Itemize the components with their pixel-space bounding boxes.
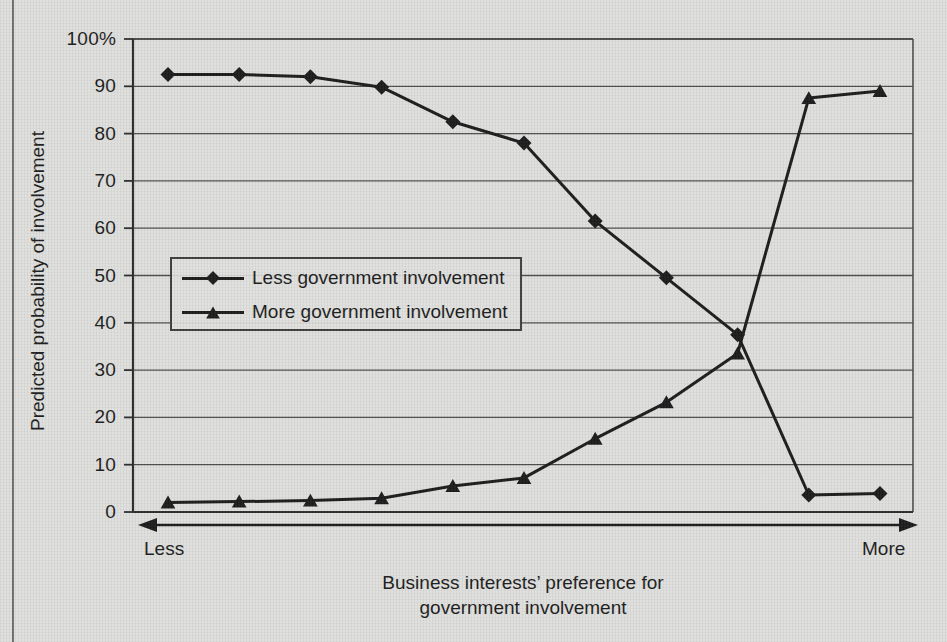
- data-point-marker-triangle: [588, 432, 603, 445]
- data-point-marker-diamond: [374, 80, 389, 95]
- x-axis-right-end-label: More: [862, 538, 905, 560]
- data-point-marker-diamond: [206, 271, 220, 285]
- figure-chart-predicted-probability: Predicted probability of involvement 010…: [0, 0, 947, 642]
- legend-item-2: More government involvement: [182, 295, 508, 329]
- x-axis-left-end-label: Less: [144, 538, 184, 560]
- legend-diamond-icon: [182, 268, 244, 288]
- data-point-marker-diamond: [873, 486, 888, 501]
- data-point-marker-diamond: [801, 487, 816, 502]
- x-axis-title: Business interests’ preference for gover…: [133, 570, 913, 620]
- y-axis-tick-marks: [124, 39, 133, 512]
- x-axis-direction-arrow: [138, 518, 918, 532]
- data-point-marker-diamond: [232, 67, 247, 82]
- legend-item-label: More government involvement: [252, 301, 508, 323]
- legend-triangle-icon: [182, 302, 244, 322]
- data-point-marker-diamond: [303, 69, 318, 84]
- legend-item-1: Less government involvement: [182, 261, 504, 295]
- x-axis-title-line2: government involvement: [133, 595, 913, 620]
- data-point-marker-diamond: [445, 114, 460, 129]
- x-axis-title-line1: Business interests’ preference for: [133, 570, 913, 595]
- chart-legend: Less government involvementMore governme…: [170, 257, 522, 331]
- legend-item-label: Less government involvement: [252, 267, 504, 289]
- gridlines: [133, 39, 913, 465]
- data-point-marker-triangle: [206, 307, 220, 319]
- data-point-marker-diamond: [161, 67, 176, 82]
- y-axis-title: Predicted probability of involvement: [27, 121, 49, 441]
